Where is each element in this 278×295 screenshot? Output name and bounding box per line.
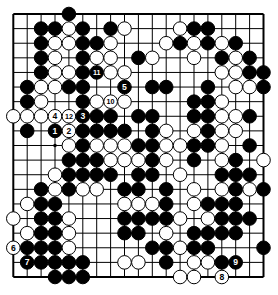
black-stone bbox=[62, 183, 76, 197]
white-stone bbox=[62, 22, 76, 36]
move-number-label: 12 bbox=[65, 112, 73, 121]
black-stone bbox=[243, 109, 257, 123]
black-stone bbox=[146, 241, 160, 255]
black-stone bbox=[34, 66, 48, 80]
black-stone bbox=[146, 80, 160, 94]
white-stone bbox=[118, 139, 132, 153]
white-stone bbox=[104, 36, 118, 50]
black-stone bbox=[215, 51, 229, 65]
go-board-container: 115104123126798 bbox=[0, 0, 278, 295]
black-stone bbox=[201, 109, 215, 123]
black-stone bbox=[215, 226, 229, 240]
black-stone bbox=[159, 256, 173, 270]
black-stone bbox=[201, 22, 215, 36]
black-stone bbox=[62, 256, 76, 270]
white-stone bbox=[62, 66, 76, 80]
black-stone bbox=[201, 139, 215, 153]
white-stone bbox=[62, 226, 76, 240]
black-stone bbox=[62, 168, 76, 182]
white-stone bbox=[187, 36, 201, 50]
white-stone bbox=[48, 80, 62, 94]
black-stone bbox=[229, 226, 243, 240]
white-stone bbox=[159, 226, 173, 240]
white-stone bbox=[34, 95, 48, 109]
white-stone bbox=[104, 51, 118, 65]
black-stone bbox=[243, 212, 257, 226]
move-number-label: 7 bbox=[25, 257, 30, 267]
black-stone bbox=[187, 109, 201, 123]
black-stone bbox=[62, 7, 76, 21]
black-stone bbox=[76, 124, 90, 138]
white-stone bbox=[173, 270, 187, 284]
black-stone bbox=[229, 183, 243, 197]
black-stone bbox=[243, 139, 257, 153]
white-stone bbox=[146, 51, 160, 65]
white-stone bbox=[146, 197, 160, 211]
black-stone bbox=[48, 256, 62, 270]
go-board[interactable]: 115104123126798 bbox=[0, 0, 278, 295]
move-number-label: 11 bbox=[93, 68, 101, 77]
black-stone bbox=[201, 124, 215, 138]
black-stone bbox=[132, 109, 146, 123]
move-number-label: 9 bbox=[233, 257, 238, 267]
black-stone bbox=[201, 197, 215, 211]
black-stone bbox=[229, 197, 243, 211]
black-stone bbox=[187, 241, 201, 255]
black-stone bbox=[20, 124, 34, 138]
white-stone bbox=[257, 153, 271, 167]
black-stone bbox=[34, 212, 48, 226]
black-stone bbox=[76, 139, 90, 153]
white-stone bbox=[173, 241, 187, 255]
black-stone bbox=[48, 22, 62, 36]
black-stone bbox=[20, 80, 34, 94]
white-stone bbox=[118, 22, 132, 36]
black-stone bbox=[229, 168, 243, 182]
white-stone bbox=[90, 139, 104, 153]
black-stone bbox=[118, 226, 132, 240]
black-stone bbox=[257, 241, 271, 255]
white-stone bbox=[187, 51, 201, 65]
black-stone bbox=[118, 212, 132, 226]
black-stone bbox=[201, 226, 215, 240]
white-stone bbox=[243, 183, 257, 197]
black-stone bbox=[20, 241, 34, 255]
black-stone bbox=[243, 51, 257, 65]
black-stone bbox=[132, 139, 146, 153]
black-stone bbox=[62, 153, 76, 167]
black-stone bbox=[215, 212, 229, 226]
white-stone bbox=[187, 256, 201, 270]
black-stone bbox=[257, 66, 271, 80]
white-stone bbox=[159, 124, 173, 138]
black-stone bbox=[90, 109, 104, 123]
black-stone bbox=[76, 51, 90, 65]
black-stone bbox=[20, 95, 34, 109]
black-stone bbox=[159, 183, 173, 197]
white-stone bbox=[62, 36, 76, 50]
black-stone bbox=[257, 183, 271, 197]
white-stone bbox=[159, 153, 173, 167]
black-stone bbox=[187, 153, 201, 167]
white-stone bbox=[187, 270, 201, 284]
black-stone bbox=[76, 270, 90, 284]
black-stone bbox=[76, 80, 90, 94]
black-stone bbox=[257, 80, 271, 94]
move-number-label: 8 bbox=[219, 272, 224, 282]
white-stone bbox=[104, 139, 118, 153]
move-number-label: 6 bbox=[11, 243, 16, 253]
white-stone bbox=[132, 197, 146, 211]
white-stone bbox=[229, 109, 243, 123]
black-stone bbox=[34, 256, 48, 270]
white-stone bbox=[48, 66, 62, 80]
white-stone bbox=[215, 66, 229, 80]
white-stone bbox=[104, 153, 118, 167]
white-stone bbox=[159, 36, 173, 50]
black-stone bbox=[34, 183, 48, 197]
black-stone bbox=[146, 139, 160, 153]
white-stone bbox=[20, 109, 34, 123]
white-stone bbox=[173, 139, 187, 153]
move-number-label: 3 bbox=[80, 111, 85, 121]
black-stone bbox=[229, 153, 243, 167]
black-stone bbox=[159, 241, 173, 255]
white-stone bbox=[243, 80, 257, 94]
move-number-label: 2 bbox=[67, 126, 72, 136]
